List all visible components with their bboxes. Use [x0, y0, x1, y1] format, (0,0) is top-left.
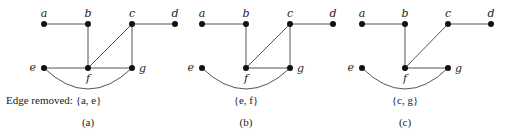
vertex-b-e — [199, 65, 205, 71]
vertex-label-b-g: g — [297, 62, 304, 75]
sublabel-a: (a) — [82, 116, 95, 129]
vertex-b-d — [330, 21, 336, 27]
vertex-label-a-g: g — [139, 62, 146, 75]
vertex-label-a-f: f — [85, 72, 92, 85]
caption-c: {c, g} — [392, 94, 418, 106]
vertex-a-f — [85, 65, 91, 71]
sublabel-b: (b) — [240, 116, 253, 129]
vertex-label-b-c: c — [287, 7, 293, 20]
vertex-label-a-e: e — [29, 61, 36, 74]
edge-a-cf — [88, 24, 132, 68]
vertex-label-a-d: d — [171, 7, 178, 20]
labels-layer: abcdefgabcdefgabcdefg — [29, 7, 494, 85]
vertex-label-a-a: a — [41, 7, 48, 20]
vertex-label-c-f: f — [402, 72, 409, 85]
vertex-label-b-e: e — [187, 61, 194, 74]
vertex-b-a — [199, 21, 205, 27]
vertex-c-f — [402, 65, 408, 71]
vertex-label-b-f: f — [243, 72, 250, 85]
vertex-b-b — [243, 21, 249, 27]
vertex-label-a-b: b — [84, 7, 91, 20]
vertex-label-c-e: e — [347, 61, 354, 74]
vertex-c-d — [488, 21, 494, 27]
vertex-label-c-b: b — [401, 7, 408, 20]
vertex-b-f — [243, 65, 249, 71]
vertex-c-b — [402, 21, 408, 27]
vertex-label-a-c: c — [129, 7, 135, 20]
vertex-label-c-g: g — [455, 62, 462, 75]
vertex-c-a — [359, 21, 365, 27]
edge-b-cf — [246, 24, 290, 68]
edge-c-cf — [405, 24, 448, 68]
vertex-c-e — [359, 65, 365, 71]
vertex-a-g — [129, 65, 135, 71]
edges-layer — [44, 24, 491, 89]
vertex-label-b-b: b — [242, 7, 249, 20]
vertex-b-g — [287, 65, 293, 71]
vertex-label-b-a: a — [199, 7, 206, 20]
vertex-c-g — [445, 65, 451, 71]
graph-diagram: abcdefgabcdefgabcdefg Edge removed: {a, … — [0, 0, 507, 136]
vertex-b-c — [287, 21, 293, 27]
vertex-a-b — [85, 21, 91, 27]
vertex-label-c-a: a — [359, 7, 366, 20]
vertex-a-d — [172, 21, 178, 27]
vertex-label-c-d: d — [487, 7, 494, 20]
caption-b: {e, f} — [234, 94, 259, 106]
vertex-label-c-c: c — [445, 7, 451, 20]
sublabel-c: (c) — [399, 116, 412, 129]
vertex-c-c — [445, 21, 451, 27]
vertex-a-c — [129, 21, 135, 27]
vertex-a-a — [41, 21, 47, 27]
captions-layer: Edge removed: {a, e} (a) {e, f} (b) {c, … — [6, 94, 418, 129]
vertex-a-e — [41, 65, 47, 71]
caption-a: Edge removed: {a, e} — [6, 94, 101, 106]
vertex-label-b-d: d — [329, 7, 336, 20]
